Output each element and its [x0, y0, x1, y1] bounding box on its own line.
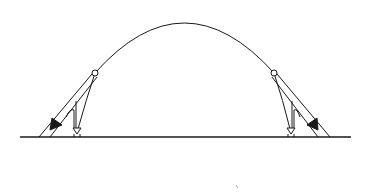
right-point-circle	[271, 70, 277, 76]
left-vertical-hook	[66, 110, 74, 129]
left-trajectory-tail	[78, 73, 95, 129]
left-point-circle	[92, 70, 98, 76]
stray-mark	[236, 185, 238, 188]
trajectory-arc	[95, 23, 274, 73]
left-diagonal-arrowhead-icon	[50, 118, 62, 130]
right-vertical-arrowhead-icon	[287, 128, 295, 134]
right-trajectory-tail	[274, 73, 290, 129]
left-diagonal-arrow-line-1	[39, 74, 92, 137]
right-arrow-group	[271, 70, 330, 137]
left-vertical-arrowhead-icon	[73, 128, 81, 134]
left-arrow-group	[39, 70, 98, 137]
right-diagonal-arrowhead-icon	[307, 118, 318, 130]
projectile-diagram	[0, 0, 368, 196]
right-diagonal-arrow-line-1	[277, 74, 330, 137]
